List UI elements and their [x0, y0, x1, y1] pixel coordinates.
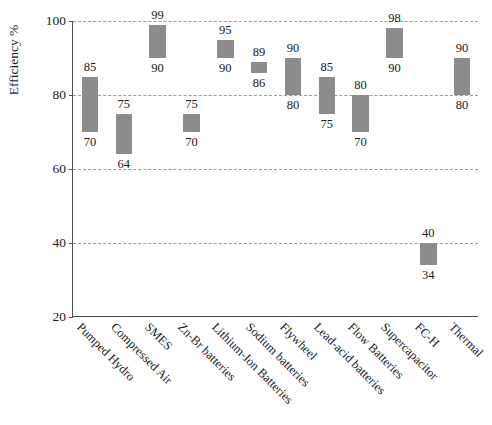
bar-max-value-label: 90 [456, 41, 469, 56]
y-tick-label-80: 80 [53, 87, 67, 103]
bar-min-value-label: 80 [456, 98, 469, 113]
y-tick-mark-80 [69, 95, 73, 96]
range-bar [149, 25, 166, 58]
range-bar [251, 62, 268, 73]
range-bar [386, 28, 403, 58]
bar-min-value-label: 90 [151, 61, 164, 76]
bar-min-value-label: 34 [422, 268, 435, 283]
bar-max-value-label: 40 [422, 226, 435, 241]
y-tick-mark-40 [69, 243, 73, 244]
bar-min-value-label: 70 [185, 135, 198, 150]
efficiency-range-chart: Efficiency % 204060801008570Pumped Hydro… [0, 0, 492, 425]
y-tick-label-100: 100 [46, 13, 66, 29]
gridline-60 [73, 169, 478, 170]
bar-min-value-label: 90 [388, 61, 401, 76]
x-tick-label: FC-H [412, 320, 443, 351]
bar-max-value-label: 75 [185, 97, 198, 112]
range-bar [319, 77, 336, 114]
range-bar [82, 77, 99, 133]
y-axis-title: Efficiency % [6, 0, 22, 120]
bar-max-value-label: 89 [253, 45, 266, 60]
bar-min-value-label: 90 [219, 61, 232, 76]
bar-max-value-label: 85 [84, 60, 97, 75]
range-bar [420, 243, 437, 265]
bar-max-value-label: 99 [151, 8, 164, 23]
bar-max-value-label: 98 [388, 11, 401, 26]
range-bar [116, 114, 133, 155]
range-bar [183, 114, 200, 133]
bar-min-value-label: 70 [354, 135, 367, 150]
range-bar [352, 95, 369, 132]
gridline-80 [73, 95, 478, 96]
gridline-40 [73, 243, 478, 244]
range-bar [217, 40, 234, 59]
y-tick-mark-20 [69, 317, 73, 318]
bar-max-value-label: 95 [219, 23, 232, 38]
bar-min-value-label: 64 [118, 157, 131, 172]
plot-area: 204060801008570Pumped Hydro7564Compresse… [72, 21, 478, 317]
range-bar [454, 58, 471, 95]
bar-max-value-label: 75 [118, 97, 131, 112]
range-bar [285, 58, 302, 95]
bar-max-value-label: 90 [287, 41, 300, 56]
bar-min-value-label: 75 [321, 117, 334, 132]
y-tick-mark-60 [69, 169, 73, 170]
bar-min-value-label: 80 [287, 98, 300, 113]
y-tick-label-60: 60 [53, 161, 67, 177]
y-tick-mark-100 [69, 21, 73, 22]
y-tick-label-40: 40 [53, 235, 67, 251]
bar-min-value-label: 86 [253, 76, 266, 91]
bar-min-value-label: 70 [84, 135, 97, 150]
bar-max-value-label: 80 [354, 78, 367, 93]
bar-max-value-label: 85 [321, 60, 334, 75]
y-tick-label-20: 20 [53, 309, 67, 325]
x-tick-label: Thermal [445, 320, 486, 361]
gridline-100 [73, 21, 478, 22]
